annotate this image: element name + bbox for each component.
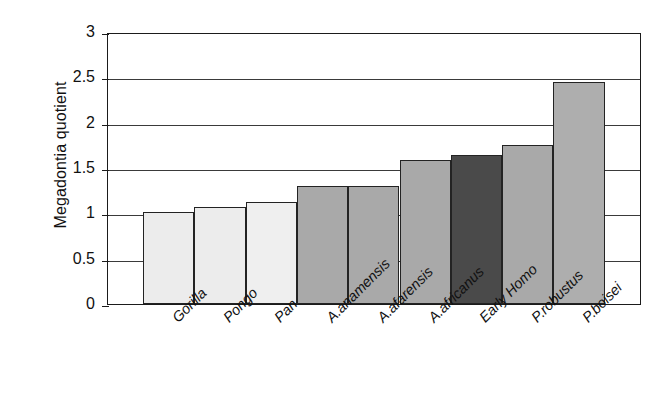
y-tick-label-2: 2	[55, 115, 95, 131]
y-tick-label-1.5: 1.5	[55, 160, 95, 176]
y-tick-label-0: 0	[55, 296, 95, 312]
bar-a-anamensis	[297, 186, 348, 304]
x-axis-category-labels: GorillaPongoPanA.anamensisA.afarensisA.a…	[107, 305, 641, 416]
y-tick-label-2.5: 2.5	[55, 69, 95, 85]
y-tick-label-1: 1	[55, 205, 95, 221]
y-tick-label-0.5: 0.5	[55, 251, 95, 267]
bar-gorilla	[143, 212, 194, 304]
y-tick-label-3: 3	[55, 24, 95, 40]
megadontia-quotient-bar-chart: Megadontia quotient 00.511.522.53 Gorill…	[0, 0, 669, 416]
